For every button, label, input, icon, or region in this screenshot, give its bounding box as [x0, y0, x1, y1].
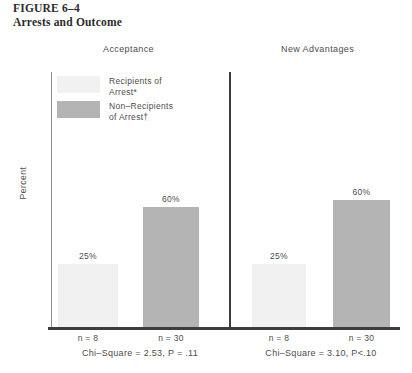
- bar-value-acceptance-non-recipients: 60%: [143, 194, 199, 204]
- legend-swatch-recipients: [57, 76, 100, 93]
- y-axis-title: Percent: [18, 153, 28, 213]
- legend-label-recipients-line2: Arrest*: [109, 87, 162, 98]
- n-label-new-advantages-recipients: n = 8: [252, 333, 306, 343]
- legend-item-recipients: Recipients of Arrest*: [57, 76, 173, 97]
- bar-value-acceptance-recipients: 25%: [58, 251, 118, 261]
- n-label-acceptance-recipients: n = 8: [58, 333, 118, 343]
- legend-label-non-recipients-line1: Non–Recipients: [109, 101, 173, 112]
- bar-new-advantages-recipients: 25%: [252, 264, 306, 327]
- legend-label-non-recipients-line2: of Arrest†: [109, 112, 173, 123]
- n-label-new-advantages-non-recipients: n = 30: [333, 333, 390, 343]
- legend-swatch-non-recipients: [57, 101, 100, 118]
- stat-acceptance: Chi–Square = 2.53, P = .11: [50, 348, 230, 358]
- chart-legend: Recipients of Arrest* Non–Recipients of …: [57, 76, 173, 126]
- legend-label-recipients: Recipients of Arrest*: [109, 76, 162, 97]
- bar-new-advantages-non-recipients: 60%: [333, 200, 390, 327]
- n-label-acceptance-non-recipients: n = 30: [143, 333, 199, 343]
- y-axis-line: [51, 72, 52, 328]
- panel-divider-line: [229, 72, 231, 328]
- legend-label-non-recipients: Non–Recipients of Arrest†: [109, 101, 173, 122]
- chart-plot-area: Percent Recipients of Arrest* Non–Recipi…: [0, 0, 412, 373]
- bar-value-new-advantages-non-recipients: 60%: [333, 187, 390, 197]
- legend-item-non-recipients: Non–Recipients of Arrest†: [57, 101, 173, 122]
- legend-label-recipients-line1: Recipients of: [109, 76, 162, 87]
- stat-new-advantages: Chi–Square = 3.10, P<.10: [232, 348, 410, 358]
- bar-acceptance-recipients: 25%: [58, 264, 118, 327]
- x-axis-baseline: [48, 327, 400, 330]
- bar-value-new-advantages-recipients: 25%: [252, 251, 306, 261]
- bar-acceptance-non-recipients: 60%: [143, 207, 199, 327]
